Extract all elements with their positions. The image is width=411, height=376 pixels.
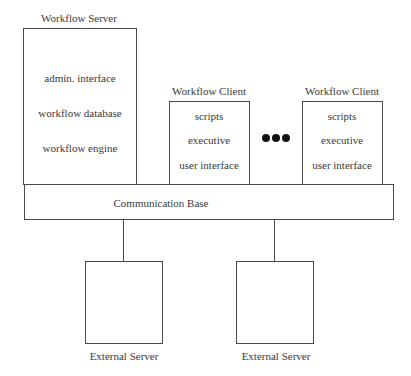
client-2-component-scripts: scripts bbox=[328, 110, 357, 122]
communication-base-label: Communication Base bbox=[113, 197, 208, 209]
client-1-component-executive: executive bbox=[188, 134, 230, 146]
connector-line-2 bbox=[274, 219, 275, 262]
communication-base-box bbox=[24, 184, 394, 220]
connector-line-1 bbox=[123, 219, 124, 262]
workflow-client-2-title: Workflow Client bbox=[305, 85, 379, 97]
workflow-client-1-title: Workflow Client bbox=[172, 85, 246, 97]
client-2-component-user-interface: user interface bbox=[312, 159, 372, 171]
client-1-component-scripts: scripts bbox=[195, 110, 224, 122]
server-component-workflow-database: workflow database bbox=[38, 107, 121, 119]
external-server-1-box bbox=[85, 261, 163, 344]
external-server-2-box bbox=[236, 261, 314, 344]
server-component-workflow-engine: workflow engine bbox=[43, 142, 118, 154]
server-component-admin-interface: admin. interface bbox=[44, 72, 115, 84]
workflow-server-title: Workflow Server bbox=[41, 12, 117, 24]
client-1-component-user-interface: user interface bbox=[179, 159, 239, 171]
client-2-component-executive: executive bbox=[321, 134, 363, 146]
external-server-1-label: External Server bbox=[90, 350, 159, 362]
external-server-2-label: External Server bbox=[242, 350, 311, 362]
